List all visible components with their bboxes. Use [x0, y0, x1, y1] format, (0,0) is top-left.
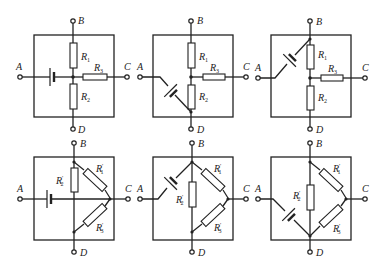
terminal-b	[71, 19, 75, 23]
label-a: A	[136, 61, 144, 72]
label-c: C	[124, 61, 131, 72]
resistor-r3	[203, 74, 225, 80]
panel-bottom-left: B D A C R′2 R′1 R′3	[16, 138, 132, 258]
terminal-b	[308, 19, 312, 23]
label-r2: R2	[80, 91, 90, 103]
panel-bottom-middle: B D A C R′2 R′1 R′3	[136, 138, 250, 258]
panel-top-left: B D A C R1 R3 R2	[15, 15, 131, 135]
label-c: C	[243, 183, 250, 194]
resistor-r3	[321, 75, 343, 81]
label-a: A	[254, 183, 262, 194]
label-c: C	[243, 61, 250, 72]
label-d: D	[315, 247, 324, 258]
terminal-a	[138, 197, 142, 201]
label-r2: R2	[317, 92, 327, 104]
battery	[47, 190, 51, 208]
terminal-a	[18, 197, 22, 201]
terminal-c	[125, 75, 129, 79]
terminal-d	[71, 127, 75, 131]
label-r3: R3	[93, 62, 103, 74]
panel-top-middle: B D A C R1 R3 R2	[136, 15, 250, 135]
label-b: B	[198, 138, 204, 149]
label-b: B	[316, 138, 322, 149]
circuit-figure: B D A C R1 R3 R2 B D A C R1	[0, 0, 379, 270]
label-b: B	[197, 15, 203, 26]
label-r2-prime: R′2	[292, 190, 301, 202]
terminal-a	[256, 76, 260, 80]
terminal-c	[244, 197, 248, 201]
label-r3: R3	[327, 63, 337, 75]
label-a: A	[16, 183, 24, 194]
label-d: D	[77, 124, 86, 135]
label-b: B	[316, 16, 322, 27]
label-b: B	[80, 138, 86, 149]
label-r3-prime: R′3	[332, 223, 341, 235]
label-a: A	[254, 62, 262, 73]
terminal-b	[189, 19, 193, 23]
label-a: A	[136, 183, 144, 194]
label-d: D	[197, 247, 206, 258]
terminal-b	[72, 141, 76, 145]
panel-top-right: B D A C R1 R3 R2	[254, 16, 369, 135]
label-r3: R3	[209, 62, 219, 74]
terminal-a	[18, 75, 22, 79]
label-r2: R2	[198, 91, 208, 103]
resistor-r1	[70, 43, 77, 68]
label-r3-prime: R′3	[213, 222, 222, 234]
label-c: C	[125, 183, 132, 194]
resistor-r1	[188, 43, 195, 68]
label-b: B	[78, 15, 84, 26]
terminal-d	[308, 250, 312, 254]
resistor-r2-prime	[189, 182, 196, 207]
label-r1: R1	[317, 49, 327, 61]
label-r3-prime: R′3	[95, 222, 104, 234]
label-r1-prime: R′1	[332, 163, 341, 175]
terminal-b	[308, 141, 312, 145]
terminal-d	[189, 127, 193, 131]
resistor-r2	[188, 85, 195, 109]
terminal-b	[190, 141, 194, 145]
battery	[50, 68, 54, 86]
label-c: C	[362, 183, 369, 194]
resistor-r2-prime	[71, 168, 78, 192]
panel-bottom-right: B D A C R′2 R′1 R′3	[254, 138, 369, 258]
terminal-c	[363, 76, 367, 80]
terminal-a	[256, 197, 260, 201]
terminal-a	[138, 75, 142, 79]
terminal-c	[244, 75, 248, 79]
resistor-r2	[307, 86, 314, 110]
resistor-r3	[83, 74, 107, 80]
label-r1: R1	[80, 51, 90, 63]
label-a: A	[15, 61, 23, 72]
label-r1-prime: R′1	[95, 163, 104, 175]
resistor-r1	[307, 45, 314, 69]
terminal-d	[308, 127, 312, 131]
terminal-d	[72, 250, 76, 254]
label-r2-prime: R′2	[55, 175, 64, 187]
resistor-r2	[70, 84, 77, 109]
terminal-c	[126, 197, 130, 201]
terminal-c	[363, 197, 367, 201]
label-d: D	[315, 124, 324, 135]
label-r1-prime: R′1	[213, 163, 222, 175]
label-r1: R1	[198, 51, 208, 63]
label-r2-prime: R′2	[175, 194, 184, 206]
label-d: D	[196, 124, 205, 135]
label-c: C	[362, 62, 369, 73]
label-d: D	[79, 247, 88, 258]
terminal-d	[190, 250, 194, 254]
resistor-r2-prime	[307, 185, 314, 210]
